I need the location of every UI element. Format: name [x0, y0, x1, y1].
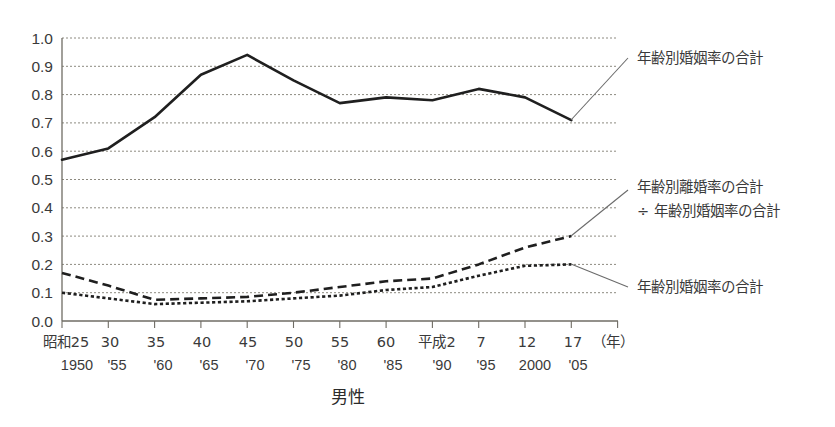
chart-canvas: 0.0 0.1 0.2 0.3 0.4 0.5 0.6 0.7 0.8 0.9 … — [0, 0, 835, 427]
x-tick-label-western: '80 — [338, 357, 357, 373]
x-tick-label-western: '85 — [384, 357, 403, 373]
x-tick-label-era: 12 — [518, 334, 536, 350]
annotation-middle-line1: 年齢別離婚率の合計 — [637, 178, 763, 195]
x-tick-label-era: 45 — [239, 334, 257, 350]
y-axis-labels: 0.0 0.1 0.2 0.3 0.4 0.5 0.6 0.7 0.8 0.9 … — [31, 30, 53, 330]
x-tick-label-era: 55 — [331, 334, 349, 350]
x-tick-label-western: '55 — [108, 357, 127, 373]
x-tick-label-western: '70 — [246, 357, 265, 373]
y-tick-label: 0.8 — [31, 86, 53, 103]
y-tick-label: 0.7 — [31, 114, 53, 131]
chart-title: 男性 — [331, 387, 365, 407]
annotation-group-middle: 年齢別離婚率の合計 ÷ 年齢別婚姻率の合計 — [637, 178, 780, 219]
y-tick-label: 1.0 — [31, 30, 53, 47]
x-tick-label-era: 40 — [193, 334, 211, 350]
x-tick-label-era: 60 — [377, 334, 395, 350]
x-tick-label-western: 1950 — [61, 357, 93, 373]
x-axis-ticks — [62, 321, 618, 328]
annotation-group-bottom: 年齢別婚姻率の合計 — [637, 279, 763, 295]
x-tick-label-era: 35 — [147, 334, 165, 350]
x-tick-label-era: 30 — [101, 334, 119, 350]
x-tick-label-era: 昭和25 — [43, 334, 89, 350]
x-tick-label-western: '60 — [154, 357, 173, 373]
y-tick-label: 0.2 — [31, 256, 53, 273]
y-tick-label: 0.0 — [31, 313, 53, 330]
x-tick-label-era: 平成2 — [418, 334, 455, 350]
y-tick-label: 0.9 — [31, 58, 53, 75]
x-tick-label-western: '75 — [292, 357, 311, 373]
x-tick-label-western: '05 — [569, 357, 588, 373]
annotation-group-top: 年齢別婚姻率の合計 — [637, 50, 763, 66]
x-tick-label-western: '90 — [433, 357, 452, 373]
annotation-top-line1: 年齢別婚姻率の合計 — [637, 50, 763, 66]
x-tick-label-western: '65 — [200, 357, 219, 373]
x-tick-label-western: '95 — [477, 357, 496, 373]
y-tick-label: 0.1 — [31, 284, 53, 301]
x-tick-label-era: 17 — [564, 334, 582, 350]
y-tick-label: 0.6 — [31, 143, 53, 160]
x-tick-label-western: 2000 — [519, 357, 551, 373]
x-axis-labels-era: 昭和25 30 35 40 45 50 55 60 平成2 7 12 17 （年… — [43, 334, 634, 350]
x-axis-unit-label: （年） — [592, 334, 634, 350]
line-chart: 0.0 0.1 0.2 0.3 0.4 0.5 0.6 0.7 0.8 0.9 … — [0, 0, 835, 427]
annotation-bottom-line1: 年齢別婚姻率の合計 — [637, 279, 763, 295]
x-tick-label-era: 50 — [285, 334, 303, 350]
annotation-middle-line2: ÷ 年齢別婚姻率の合計 — [637, 203, 780, 219]
y-tick-label: 0.5 — [31, 171, 53, 188]
y-tick-label: 0.4 — [31, 199, 53, 216]
y-tick-label: 0.3 — [31, 228, 53, 245]
x-axis-labels-western: 1950 '55 '60 '65 '70 '75 '80 '85 '90 '95… — [61, 357, 588, 373]
x-tick-label-era: 7 — [476, 334, 485, 350]
